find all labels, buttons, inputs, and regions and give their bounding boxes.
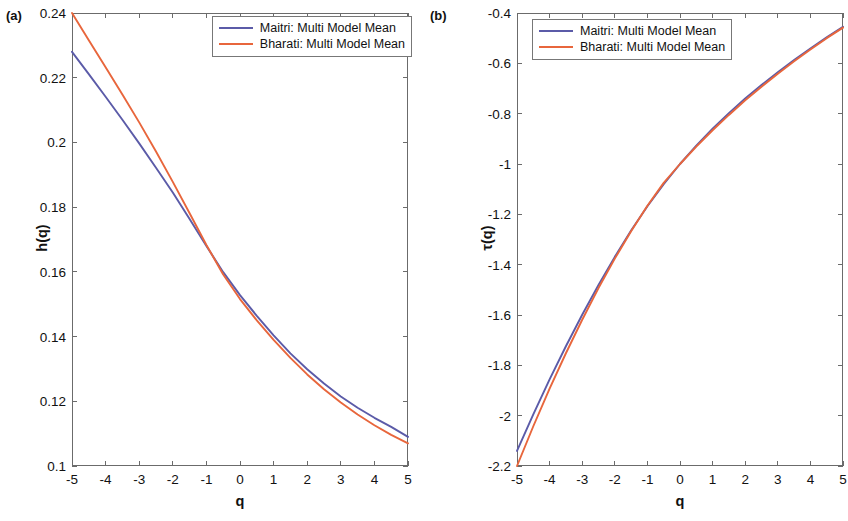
panel-b-x-axis-title: q [676, 493, 685, 509]
legend-label: Bharati: Multi Model Mean [260, 36, 405, 52]
legend-label: Bharati: Multi Model Mean [580, 39, 725, 55]
legend-entry: Bharati: Multi Model Mean [219, 36, 405, 52]
legend-label: Maitri: Multi Model Mean [260, 20, 396, 36]
legend-entry: Maitri: Multi Model Mean [539, 23, 725, 39]
legend-entry: Maitri: Multi Model Mean [219, 20, 405, 36]
legend-color-swatch [219, 43, 253, 45]
panel-a-curves [0, 0, 424, 521]
legend-color-swatch [219, 27, 253, 29]
panel-b-legend: Maitri: Multi Model MeanBharati: Multi M… [532, 19, 732, 60]
series-line [72, 52, 408, 437]
panel-a-x-axis-title: q [236, 493, 245, 509]
legend-entry: Bharati: Multi Model Mean [539, 39, 725, 55]
series-line [72, 13, 408, 443]
legend-label: Maitri: Multi Model Mean [580, 23, 716, 39]
panel-a: (a) 0.10.120.140.160.180.20.220.24-5-4-3… [0, 0, 424, 521]
legend-color-swatch [539, 46, 573, 48]
legend-color-swatch [539, 30, 573, 32]
panel-b: (b) -2.2-2-1.8-1.6-1.4-1.2-1-0.8-0.6-0.4… [424, 0, 848, 521]
series-line [517, 28, 843, 466]
panel-a-y-axis-title: h(q) [34, 208, 50, 268]
panel-b-y-axis-title: τ(q) [479, 208, 495, 268]
panel-a-legend: Maitri: Multi Model MeanBharati: Multi M… [212, 16, 412, 57]
series-line [517, 27, 843, 451]
